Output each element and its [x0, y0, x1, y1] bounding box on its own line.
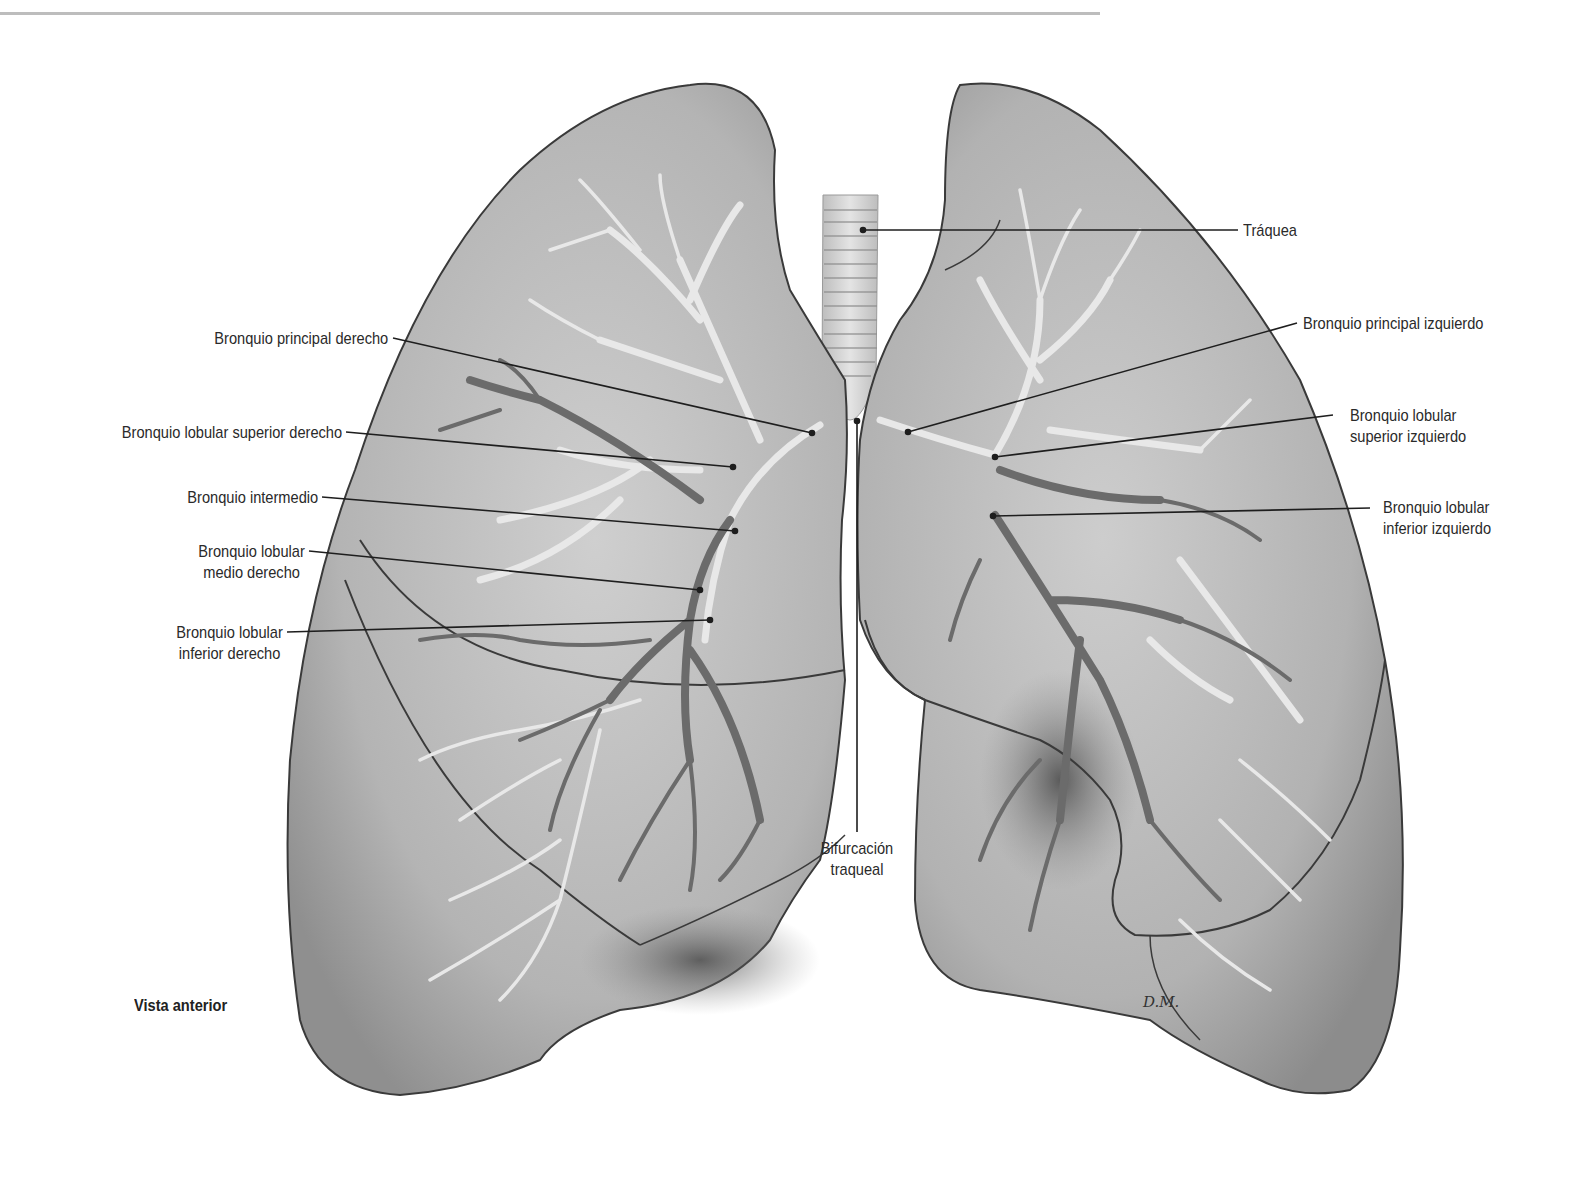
label-line: Bronquio lobular	[199, 541, 305, 562]
left-lung	[858, 83, 1403, 1093]
label-line: Bronquio lobular	[177, 622, 283, 643]
label-bronquio-lobular-medio-derecho: Bronquio lobular medio derecho	[199, 541, 305, 583]
right-lung	[288, 84, 847, 1095]
label-bronquio-lobular-inferior-derecho: Bronquio lobular inferior derecho	[177, 622, 283, 664]
label-bifurcacion-traqueal: Bifurcación traqueal	[805, 838, 908, 880]
label-traquea: Tráquea	[1243, 220, 1297, 241]
artist-signature: D.M.	[1143, 993, 1179, 1011]
view-title: Vista anterior	[134, 996, 227, 1016]
lungs-illustration	[0, 0, 1595, 1188]
label-line: Bronquio principal derecho	[214, 329, 388, 348]
label-bronquio-lobular-superior-derecho: Bronquio lobular superior derecho	[122, 422, 342, 443]
label-line: superior izquierdo	[1350, 426, 1466, 447]
label-line: inferior derecho	[177, 643, 283, 664]
label-line: Bifurcación	[805, 838, 908, 859]
label-line: Tráquea	[1243, 221, 1297, 240]
label-line: Bronquio intermedio	[187, 488, 318, 507]
label-line: Bronquio lobular superior derecho	[122, 423, 342, 442]
label-bronquio-intermedio: Bronquio intermedio	[187, 487, 318, 508]
label-bronquio-principal-derecho: Bronquio principal derecho	[214, 328, 388, 349]
label-line: Bronquio principal izquierdo	[1303, 314, 1483, 333]
label-line: medio derecho	[199, 562, 305, 583]
label-bronquio-principal-izquierdo: Bronquio principal izquierdo	[1303, 313, 1483, 334]
label-line: Bronquio lobular	[1383, 497, 1491, 518]
label-bronquio-lobular-superior-izquierdo: Bronquio lobular superior izquierdo	[1350, 405, 1466, 447]
label-line: inferior izquierdo	[1383, 518, 1491, 539]
label-line: traqueal	[805, 859, 908, 880]
label-bronquio-lobular-inferior-izquierdo: Bronquio lobular inferior izquierdo	[1383, 497, 1491, 539]
label-line: Bronquio lobular	[1350, 405, 1466, 426]
